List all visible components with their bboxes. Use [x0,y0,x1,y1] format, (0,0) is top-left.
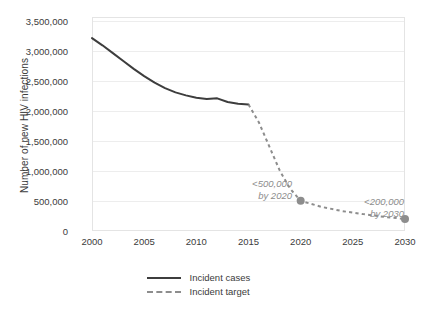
y-tick-label: 3,000,000 [0,46,68,57]
annotation-line-2: by 2020 [218,190,292,202]
x-tick-label: 2005 [114,236,174,247]
y-tick-label: 2,500,000 [0,76,68,87]
y-tick-label: 3,500,000 [0,16,68,27]
legend-item-incident-cases: Incident cases [147,272,279,283]
y-tick-label: 0 [0,226,68,237]
legend-swatch-solid-line-icon [147,273,181,283]
y-axis-title: Number of new HIV infections [19,36,30,216]
annotation-target-2020: <500,000 by 2020 [218,178,292,201]
legend-swatch-dashed-line-icon [147,287,181,297]
x-tick-label: 2020 [271,236,331,247]
y-tick-label: 1,000,000 [0,166,68,177]
annotation-line-1: <500,000 [218,178,292,190]
gridline [93,171,404,172]
gridline [93,111,404,112]
gridline [93,51,404,52]
x-tick-label: 2000 [62,236,122,247]
legend-label: Incident target [190,286,250,297]
x-tick-label: 2030 [375,236,425,247]
hiv-incidence-line-chart: Number of new HIV infections 3,500,000 3… [0,0,425,317]
x-tick-label: 2025 [323,236,383,247]
gridline [93,21,404,22]
annotation-line-1: <200,000 [330,196,404,208]
x-tick-label: 2015 [219,236,279,247]
legend-label: Incident cases [190,272,251,283]
y-tick-label: 2,000,000 [0,106,68,117]
y-tick-label: 500,000 [0,196,68,207]
gridline [93,141,404,142]
gridline [93,81,404,82]
y-tick-label: 1,500,000 [0,136,68,147]
annotation-target-2030: <200,000 by 2030 [330,196,404,219]
annotation-line-2: by 2030 [330,208,404,220]
legend-item-incident-target: Incident target [147,286,279,297]
chart-legend: Incident cases Incident target [0,272,425,297]
x-tick-label: 2010 [166,236,226,247]
